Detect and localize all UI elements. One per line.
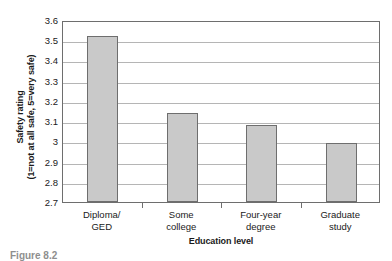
- plot-area: [62, 21, 380, 203]
- y-axis-tick-label: 3.6: [30, 16, 58, 26]
- x-axis-tick-label: Somecollege: [142, 209, 222, 233]
- y-axis-tick-labels: 3.63.53.43.33.23.132.92.82.7: [30, 14, 58, 210]
- x-axis-tick-mark: [221, 203, 222, 208]
- x-axis-tick-label-line: Diploma/: [62, 209, 142, 221]
- x-axis-tick-mark: [142, 203, 143, 208]
- figure-caption: Figure 8.2: [10, 250, 57, 261]
- bar: [246, 125, 277, 202]
- bar: [167, 113, 198, 202]
- x-axis-tick-label-line: degree: [221, 221, 301, 233]
- x-axis-tick-labels: Diploma/GEDSomecollegeFour-yeardegreeGra…: [62, 209, 380, 237]
- x-axis-tick-label-line: Some: [142, 209, 222, 221]
- y-axis-tick-label: 2.9: [30, 158, 58, 168]
- y-axis-tick-label: 3.3: [30, 77, 58, 87]
- y-axis-tick-label: 3.4: [30, 56, 58, 66]
- bar: [87, 36, 118, 202]
- x-axis-tick-mark: [301, 203, 302, 208]
- x-axis-tick-label-line: GED: [62, 221, 142, 233]
- x-axis-tick-marks: [62, 203, 380, 208]
- y-axis-tick-label: 3.5: [30, 36, 58, 46]
- x-axis-tick-label: Graduatestudy: [301, 209, 381, 233]
- x-axis-tick-label-line: Four-year: [221, 209, 301, 221]
- y-axis-tick-label: 2.8: [30, 178, 58, 188]
- y-axis-tick-label: 3.1: [30, 117, 58, 127]
- bar-series: [63, 22, 379, 202]
- y-axis-tick-label: 2.7: [30, 198, 58, 208]
- y-axis-tick-label: 3.2: [30, 97, 58, 107]
- y-axis-title-line1: Safety rating: [15, 90, 26, 143]
- x-axis-tick-label-line: Graduate: [301, 209, 381, 221]
- x-axis-title: Education level: [62, 236, 380, 246]
- x-axis-tick-label: Diploma/GED: [62, 209, 142, 233]
- x-axis-tick-label: Four-yeardegree: [221, 209, 301, 233]
- y-axis-tick-label: 3: [30, 137, 58, 147]
- bar: [326, 143, 357, 202]
- x-axis-tick-label-line: study: [301, 221, 381, 233]
- x-axis-tick-label-line: college: [142, 221, 222, 233]
